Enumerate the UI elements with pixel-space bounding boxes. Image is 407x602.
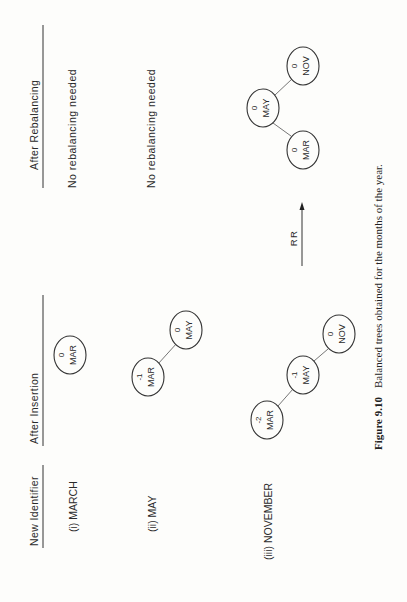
row-november: (iii) NOVEMBER -2 MAR -1 MAY 0 NOV RR [247, 47, 355, 560]
rotation-label: RR [288, 230, 299, 247]
tree-edge [278, 389, 293, 406]
balance-factor: 0 [290, 147, 299, 152]
node-label: MAY [261, 99, 271, 118]
node-label: MAR [265, 410, 275, 431]
row-march: (i) MARCH 0 MAR No rebalancing needed [54, 69, 86, 532]
balance-factor: 0 [250, 105, 259, 110]
balance-factor: -1 [135, 373, 144, 381]
header-after-insertion: After Insertion [28, 373, 40, 444]
column-headers: New Identifier After Insertion After Reb… [28, 25, 43, 548]
rr-rotation-arrow: RR [288, 202, 305, 266]
balance-factor: -2 [254, 416, 263, 424]
row-label-march: (i) MARCH [67, 481, 79, 532]
no-rebalancing-text: No rebalancing needed [145, 69, 157, 188]
svg-text:Figure 9.10Balanced trees obta: Figure 9.10Balanced trees obtained for t… [372, 164, 384, 450]
tree-node-mar: 0 MAR [54, 336, 86, 374]
book-page: New Identifier After Insertion After Reb… [0, 0, 407, 602]
header-after-rebalancing: After Rebalancing [28, 80, 40, 170]
tree-edge [275, 79, 292, 95]
balance-factor: 0 [57, 352, 66, 357]
node-label: NOV [337, 324, 347, 344]
tree-edge [273, 123, 291, 136]
arrow-head-icon [300, 202, 305, 210]
tree-node-may: 0 MAY [247, 89, 279, 127]
no-rebalancing-text: No rebalancing needed [66, 69, 78, 188]
tree-edge [158, 343, 177, 364]
tree-node-nov: 0 NOV [323, 315, 355, 353]
row-may: (ii) MAY -1 MAR 0 MAY No rebalancing nee… [132, 69, 202, 532]
balance-factor: -1 [290, 371, 299, 379]
balance-factor: 0 [326, 331, 335, 336]
balance-factor: 0 [290, 63, 299, 68]
tree-node-mar: -1 MAR [132, 358, 164, 396]
figure-caption: Figure 9.10Balanced trees obtained for t… [372, 164, 384, 450]
tree-node-may: 0 MAY [170, 311, 202, 349]
balance-factor: 0 [173, 327, 182, 332]
node-label: MAY [301, 366, 311, 385]
node-label: MAR [68, 345, 78, 366]
tree-node-nov: 0 NOV [287, 47, 319, 85]
header-new-identifier: New Identifier [28, 476, 40, 546]
tree-node-mar: -2 MAR [251, 401, 283, 439]
tree-edge [314, 349, 328, 361]
node-label: MAR [301, 140, 311, 161]
tree-node-mar: 0 MAR [287, 131, 319, 169]
node-label: NOV [301, 56, 311, 76]
caption-text: Balanced trees obtained for the months o… [372, 164, 384, 388]
row-label-may: (ii) MAY [146, 495, 158, 532]
node-label: MAY [184, 321, 194, 340]
row-label-november: (iii) NOVEMBER [262, 483, 274, 560]
avl-figure: New Identifier After Insertion After Reb… [0, 0, 407, 602]
figure-label: Figure 9.10 [372, 397, 384, 450]
node-label: MAR [146, 367, 156, 388]
tree-node-may: -1 MAY [287, 356, 319, 394]
